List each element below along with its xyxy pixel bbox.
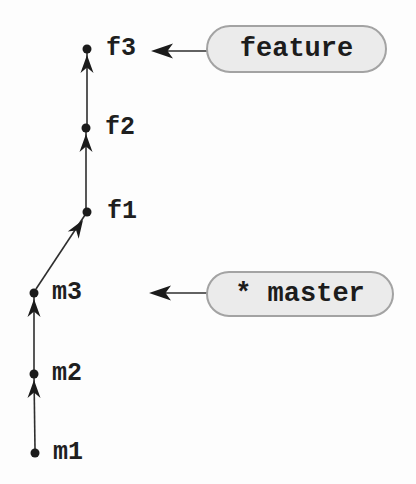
branch-pointer-group — [149, 44, 207, 301]
branch-label-master-text: * master — [235, 279, 365, 309]
commit-node-m1 — [31, 449, 40, 458]
commit-label-m1: m1 — [53, 440, 83, 465]
branch-label-master: * master — [206, 271, 394, 317]
commit-label-m2: m2 — [52, 361, 82, 386]
branch-label-feature-text: feature — [240, 34, 353, 64]
commit-node-m3 — [30, 289, 39, 298]
arrowhead-group — [28, 55, 94, 398]
branch-label-feature: feature — [206, 25, 387, 73]
commit-node-f2 — [82, 124, 91, 133]
commit-label-m3: m3 — [52, 280, 82, 305]
commit-label-f2: f2 — [105, 115, 135, 140]
edge-group — [34, 52, 87, 449]
commit-node-m2 — [30, 370, 39, 379]
commit-label-f3: f3 — [106, 36, 136, 61]
commit-node-f3 — [83, 45, 92, 54]
commit-node-f1 — [83, 208, 92, 217]
commit-label-f1: f1 — [107, 199, 137, 224]
git-graph-diagram: f3 f2 f1 m3 m2 m1 feature * master — [0, 0, 416, 484]
